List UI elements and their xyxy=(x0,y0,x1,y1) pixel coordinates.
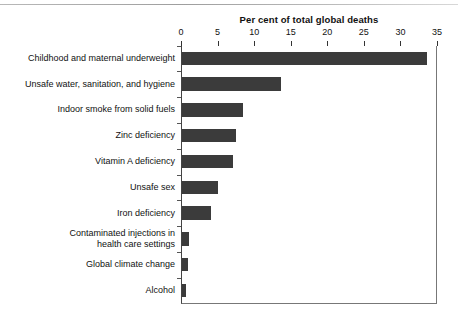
y-tick-mark xyxy=(177,200,181,201)
x-tick-label: 20 xyxy=(322,27,332,37)
bar-series xyxy=(182,46,438,304)
y-tick-mark xyxy=(177,46,181,47)
bar xyxy=(182,258,188,272)
y-tick-mark xyxy=(177,97,181,98)
category-label-line: Childhood and maternal underweight xyxy=(0,53,175,64)
category-label: Global climate change xyxy=(0,259,175,270)
y-tick-mark xyxy=(177,71,181,72)
category-label: Unsafe water, sanitation, and hygiene xyxy=(0,79,175,90)
x-tick-label: 5 xyxy=(215,27,220,37)
category-label: Indoor smoke from solid fuels xyxy=(0,104,175,115)
y-tick-mark xyxy=(177,123,181,124)
bar xyxy=(182,129,236,143)
category-label-line: Vitamin A deficiency xyxy=(0,156,175,167)
chart-page: Per cent of total global deaths 05101520… xyxy=(0,0,458,324)
bar xyxy=(182,206,211,220)
y-tick-mark xyxy=(177,252,181,253)
bar xyxy=(182,232,189,246)
chart-title: Per cent of total global deaths xyxy=(181,14,437,25)
bar xyxy=(182,52,427,66)
category-label: Alcohol xyxy=(0,285,175,296)
y-tick-mark xyxy=(177,149,181,150)
x-tick-label: 10 xyxy=(249,27,259,37)
x-tick-label: 0 xyxy=(178,27,183,37)
category-label: Contaminated injections inhealth care se… xyxy=(0,228,175,250)
y-tick-mark xyxy=(177,175,181,176)
bar xyxy=(182,155,233,169)
category-label-line: Global climate change xyxy=(0,259,175,270)
category-label-line: Unsafe water, sanitation, and hygiene xyxy=(0,79,175,90)
scan-artifact-line xyxy=(0,4,458,5)
category-labels: Childhood and maternal underweightUnsafe… xyxy=(0,46,175,304)
category-label: Iron deficiency xyxy=(0,208,175,219)
x-tick-label: 15 xyxy=(286,27,296,37)
x-tick-label: 35 xyxy=(432,27,442,37)
category-label-line: Unsafe sex xyxy=(0,182,175,193)
bar xyxy=(182,181,218,195)
y-tick-mark xyxy=(177,278,181,279)
bar xyxy=(182,103,243,117)
bar xyxy=(182,284,186,298)
category-label-line: Indoor smoke from solid fuels xyxy=(0,104,175,115)
category-label-line: Contaminated injections in xyxy=(0,228,175,239)
category-label: Zinc deficiency xyxy=(0,130,175,141)
category-label-line: Zinc deficiency xyxy=(0,130,175,141)
x-tick-label: 25 xyxy=(359,27,369,37)
category-label-line: Iron deficiency xyxy=(0,208,175,219)
category-label-line: health care settings xyxy=(0,239,175,250)
x-tick-label: 30 xyxy=(395,27,405,37)
category-label: Vitamin A deficiency xyxy=(0,156,175,167)
category-label-line: Alcohol xyxy=(0,285,175,296)
x-axis-tick-labels: 05101520253035 xyxy=(181,27,437,39)
category-label: Childhood and maternal underweight xyxy=(0,53,175,64)
category-label: Unsafe sex xyxy=(0,182,175,193)
bar xyxy=(182,77,281,91)
y-tick-mark xyxy=(177,226,181,227)
